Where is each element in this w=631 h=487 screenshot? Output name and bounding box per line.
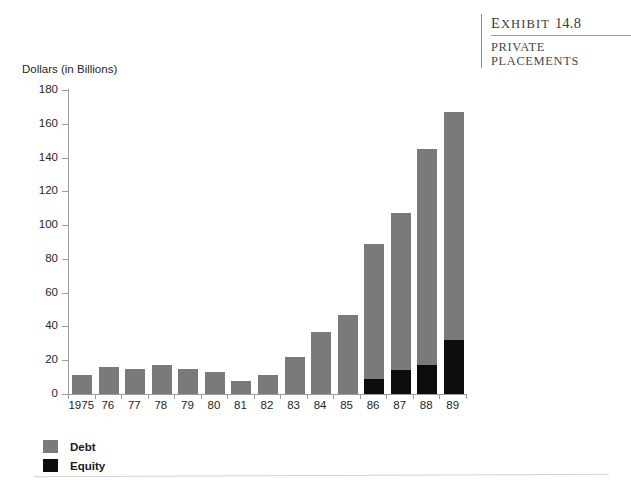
bar-segment-equity [444,340,464,394]
y-axis-label: 60 [18,287,58,299]
y-axis-label: 20 [18,354,58,366]
y-axis-label: 120 [18,185,58,197]
bar-stack [364,244,384,394]
x-axis-tick [413,394,414,399]
x-axis-tick [307,394,308,399]
bar-segment-debt [99,367,119,394]
x-axis-tick [148,394,149,399]
x-axis-tick [174,394,175,399]
y-axis-label: 80 [18,253,58,265]
x-axis-line [68,394,467,395]
y-axis-label: 140 [18,152,58,164]
bar-stack [125,369,145,394]
x-axis-tick [227,394,228,399]
x-axis-tick [466,394,467,399]
bar-segment-debt [338,315,358,394]
bar-segment-debt [178,369,198,394]
x-axis-tick [254,394,255,399]
legend-label-debt: Debt [70,441,96,453]
plot-area [68,90,466,394]
bar-stack [152,365,172,394]
bar-segment-debt [72,375,92,394]
bar-segment-debt [285,357,305,394]
bar-segment-debt [364,244,384,379]
bar-segment-debt [231,381,251,395]
bar-stack [258,375,278,394]
bar-stack [72,375,92,394]
legend-swatch-equity [43,459,58,472]
y-axis-label: 40 [18,320,58,332]
x-axis-label: 89 [431,400,474,412]
y-axis-label: 180 [18,84,58,96]
bar-segment-debt [311,332,331,394]
x-axis-tick [95,394,96,399]
bar-segment-equity [417,365,437,394]
chart-legend: Debt Equity [43,437,105,475]
bar-stack [338,315,358,394]
bar-segment-debt [444,112,464,340]
y-axis-label: 160 [18,118,58,130]
bar-stack [231,381,251,395]
bar-segment-debt [417,149,437,365]
y-axis-label: 100 [18,219,58,231]
bar-stack [285,357,305,394]
bar-segment-equity [391,370,411,394]
bar-stack [205,372,225,394]
legend-label-equity: Equity [70,460,105,472]
x-axis-tick [386,394,387,399]
bar-segment-debt [152,365,172,394]
bar-stack [311,332,331,394]
legend-item-equity: Equity [43,456,105,475]
y-axis-label: 0 [18,388,58,400]
bar-segment-equity [364,379,384,394]
x-axis-tick [121,394,122,399]
legend-swatch-debt [43,440,58,453]
bar-segment-debt [205,372,225,394]
bar-segment-debt [391,213,411,370]
x-axis-tick [360,394,361,399]
legend-item-debt: Debt [43,437,105,456]
bar-stack [417,149,437,394]
bar-segment-debt [258,375,278,394]
x-axis-tick [201,394,202,399]
y-axis-title: Dollars (in Billions) [22,63,117,75]
bar-stack [99,367,119,394]
bar-stack [444,112,464,394]
x-axis-tick [280,394,281,399]
bar-segment-debt [125,369,145,394]
x-axis-tick [439,394,440,399]
bar-stack [178,369,198,394]
bar-stack [391,213,411,394]
x-axis-tick [333,394,334,399]
